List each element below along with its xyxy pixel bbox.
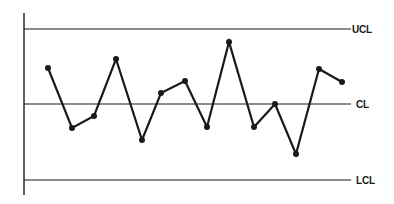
data-series-line — [48, 42, 342, 154]
data-point — [69, 125, 75, 131]
data-point — [158, 90, 164, 96]
cl-label: CL — [356, 100, 369, 110]
data-point — [339, 79, 345, 85]
data-point — [45, 65, 51, 71]
ucl-label: UCL — [352, 25, 372, 35]
data-point — [226, 39, 232, 45]
data-point — [113, 56, 119, 62]
lcl-label: LCL — [356, 176, 375, 186]
data-point — [182, 78, 188, 84]
data-point — [139, 137, 145, 143]
data-point — [293, 151, 299, 157]
data-point — [204, 124, 210, 130]
data-point — [91, 113, 97, 119]
data-point — [316, 66, 322, 72]
data-point — [272, 101, 278, 107]
control-chart — [0, 0, 394, 204]
data-point — [251, 124, 257, 130]
